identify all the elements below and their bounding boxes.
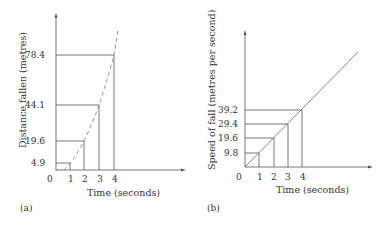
chart-a [55, 13, 187, 172]
xtick-1: 1 [257, 172, 263, 182]
xtick-2: 2 [271, 172, 277, 182]
panel-label-b: (b) [207, 203, 220, 213]
ytick-4-9: 4.9 [31, 158, 46, 168]
guide-t4 [56, 55, 114, 170]
xtick-3: 3 [97, 174, 103, 184]
arrow-up-icon [244, 30, 247, 35]
xtick-3: 3 [285, 172, 291, 182]
x-axis-label: Time (seconds) [276, 184, 349, 195]
chart-b [244, 30, 374, 169]
y-axis-label: Speed of fall (metres per second) [206, 10, 217, 170]
ytick-78-4: 78.4 [25, 50, 45, 60]
xtick-1: 1 [68, 174, 74, 184]
arrow-right-icon [368, 166, 373, 169]
origin-label: 0 [47, 174, 53, 184]
arrow-right-icon [181, 169, 186, 172]
ytick-29-4: 29.4 [218, 119, 238, 129]
xtick-4: 4 [300, 172, 306, 182]
ytick-39-2: 39.2 [218, 105, 238, 115]
panel-label-a: (a) [20, 203, 32, 213]
xtick-4: 4 [112, 174, 118, 184]
distance-curve [64, 30, 118, 170]
figure: 78.4 44.1 19.6 4.9 0 1 2 3 4 Time (secon… [0, 0, 392, 225]
xtick-2: 2 [82, 174, 88, 184]
ytick-44-1: 44.1 [25, 100, 45, 110]
y-axis-label: Distance fallen (metres) [17, 32, 28, 148]
guide-t1 [56, 163, 70, 170]
origin-label: 0 [236, 172, 242, 182]
ytick-9-8: 9.8 [224, 148, 239, 158]
speed-line [245, 52, 358, 167]
arrow-up-icon [55, 13, 58, 18]
chart-b-labels: 39.2 29.4 19.6 9.8 0 1 2 3 4 Time (secon… [206, 10, 349, 213]
guide-t3 [56, 105, 99, 170]
x-axis-label: Time (seconds) [87, 187, 160, 198]
ytick-19-6: 19.6 [218, 133, 238, 143]
chart-a-labels: 78.4 44.1 19.6 4.9 0 1 2 3 4 Time (secon… [17, 32, 160, 213]
ytick-19-6: 19.6 [25, 136, 45, 146]
